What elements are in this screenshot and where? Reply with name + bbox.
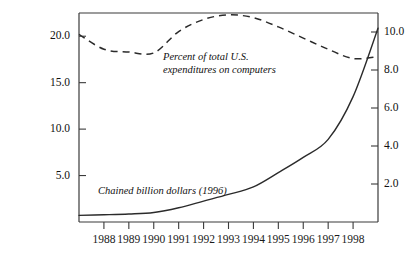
right-axis-tick-label: 2.0 (384, 178, 398, 190)
left-axis-tick-label: 5.0 (4, 170, 70, 182)
right-axis-tick-label: 6.0 (384, 102, 398, 114)
right-axis-tick-label: 4.0 (384, 140, 398, 152)
chart-container: 20.015.010.05.0 10.08.06.04.02.0 1988198… (0, 0, 420, 258)
x-axis-tick-label: 1998 (331, 234, 375, 246)
annotation-percent-of-expenditures: Percent of total U.S. expenditures on co… (163, 50, 276, 77)
left-axis-tick-label: 15.0 (4, 77, 70, 89)
left-axis-ticks (79, 36, 86, 175)
right-axis-ticks (371, 32, 378, 184)
annotation-chained-billion-dollars: Chained billion dollars (1996) (98, 184, 227, 197)
right-axis-tick-label: 8.0 (384, 64, 398, 76)
right-axis-tick-label: 10.0 (384, 26, 404, 38)
left-axis-tick-label: 10.0 (4, 123, 70, 135)
x-axis-ticks (104, 222, 353, 229)
left-axis-tick-label: 20.0 (4, 30, 70, 42)
